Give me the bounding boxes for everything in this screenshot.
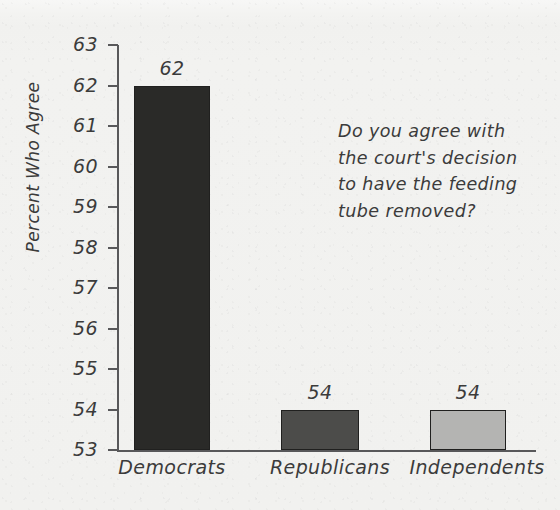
chart-annotation: Do you agree with the court's decision t… (338, 118, 534, 224)
y-tick-label: 56 (52, 319, 98, 338)
y-tick-label: 58 (52, 238, 98, 257)
y-tick-mark (108, 247, 118, 249)
bar-chart: Percent Who Agree 6362616059585756555453… (0, 0, 560, 510)
y-tick-label: 57 (52, 278, 98, 297)
annotation-line-2: the court's decision (338, 145, 534, 172)
y-tick-mark (108, 206, 118, 208)
y-tick-label: 62 (52, 76, 98, 95)
y-tick-mark (108, 125, 118, 127)
y-tick-mark (108, 368, 118, 370)
bar (430, 410, 506, 451)
bar-value-label: 62 (134, 59, 210, 78)
y-tick-label: 63 (52, 35, 98, 54)
bar-value-label: 54 (281, 383, 359, 402)
y-tick-mark (108, 44, 118, 46)
category-label: Republicans (262, 458, 398, 477)
y-tick-mark (108, 166, 118, 168)
y-tick-mark (108, 328, 118, 330)
y-tick-label: 54 (52, 400, 98, 419)
y-tick-mark (108, 449, 118, 451)
y-tick-label: 59 (52, 197, 98, 216)
y-tick-label: 60 (52, 157, 98, 176)
bar (281, 410, 359, 451)
y-tick-label: 55 (52, 359, 98, 378)
category-label: Democrats (112, 458, 232, 477)
annotation-line-1: Do you agree with (338, 118, 534, 145)
y-tick-mark (108, 409, 118, 411)
annotation-line-4: tube removed? (338, 198, 534, 225)
y-tick-label: 53 (52, 440, 98, 459)
y-tick-mark (108, 287, 118, 289)
y-axis-title: Percent Who Agree (23, 52, 43, 282)
y-tick-label: 61 (52, 116, 98, 135)
y-axis-line (117, 45, 119, 452)
y-tick-mark (108, 85, 118, 87)
x-axis-line (117, 450, 536, 452)
bar-value-label: 54 (430, 383, 506, 402)
annotation-line-3: to have the feeding (338, 171, 534, 198)
category-label: Independents (404, 458, 550, 477)
bar (134, 86, 210, 451)
